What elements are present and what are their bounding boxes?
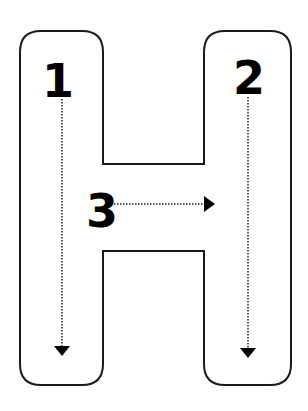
stroke-1: 1 bbox=[42, 54, 74, 356]
stroke-number-3: 3 bbox=[86, 184, 118, 238]
stroke-2: 2 bbox=[233, 51, 265, 358]
stroke-number-1: 1 bbox=[42, 54, 74, 108]
stroke-3: 3 bbox=[86, 184, 215, 238]
arrow-right-icon bbox=[204, 196, 215, 212]
stroke-number-2: 2 bbox=[233, 51, 265, 105]
arrow-down-icon bbox=[54, 346, 70, 356]
letter-h-diagram: 1 2 3 bbox=[0, 0, 308, 411]
arrow-down-icon bbox=[240, 348, 256, 358]
